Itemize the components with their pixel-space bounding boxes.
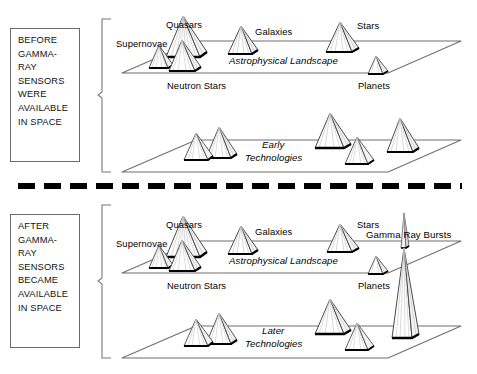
label-quasars-after: Quasars [166, 219, 202, 230]
brace-after [98, 205, 111, 358]
caption-before-line-5: WERE [18, 88, 73, 102]
label-astrophysical-landscape-after: Astrophysical Landscape [229, 255, 338, 266]
peak-galaxies [228, 26, 258, 54]
caption-before-line-2: GAMMA- [18, 48, 73, 62]
caption-box-before: BEFORE GAMMA- RAY SENSORS WERE AVAILABLE… [10, 28, 80, 162]
tech-peak-3 [315, 113, 351, 148]
label-later-technologies-line2: Technologies [245, 338, 302, 349]
caption-after-line-4: SENSORS [18, 261, 73, 275]
later-tech-peak-3 [315, 299, 351, 334]
caption-after-line-1: AFTER [18, 220, 73, 234]
caption-after-line-5: BECAME [18, 274, 73, 288]
label-early-technologies-line2: Technologies [245, 152, 302, 163]
label-neutron-stars-before: Neutron Stars [167, 80, 226, 91]
label-planets-before: Planets [358, 80, 390, 91]
label-neutron-stars-after: Neutron Stars [167, 280, 226, 291]
peak-stars-after [327, 224, 359, 252]
tech-peak-5 [387, 118, 419, 152]
label-astrophysical-landscape-before: Astrophysical Landscape [229, 55, 338, 66]
peak-galaxies-after [228, 226, 258, 254]
caption-after-line-7: IN SPACE [18, 302, 73, 316]
caption-after-line-3: RAY [18, 247, 73, 261]
brace-before [98, 19, 111, 172]
diagram-canvas: BEFORE GAMMA- RAY SENSORS WERE AVAILABLE… [0, 0, 477, 374]
label-later-technologies-line1: Later [262, 325, 284, 336]
caption-before-line-4: SENSORS [18, 75, 73, 89]
label-galaxies-before: Galaxies [255, 26, 292, 37]
label-galaxies-after: Galaxies [255, 226, 292, 237]
label-supernovae-after: Supernovae [116, 238, 168, 249]
caption-before-line-1: BEFORE [18, 34, 73, 48]
caption-after-line-2: GAMMA- [18, 234, 73, 248]
caption-before-line-7: IN SPACE [18, 116, 73, 130]
caption-before-line-3: RAY [18, 61, 73, 75]
caption-before-line-6: AVAILABLE [18, 102, 73, 116]
label-supernovae-before: Supernovae [116, 38, 168, 49]
label-gamma-ray-bursts: Gamma Ray Bursts [366, 229, 451, 240]
label-early-technologies-line1: Early [262, 139, 284, 150]
label-stars-before: Stars [357, 20, 379, 31]
peak-stars [326, 22, 359, 52]
label-quasars-before: Quasars [166, 19, 202, 30]
label-planets-after: Planets [358, 280, 390, 291]
caption-after-line-6: AVAILABLE [18, 288, 73, 302]
caption-box-after: AFTER GAMMA- RAY SENSORS BECAME AVAILABL… [10, 214, 80, 348]
